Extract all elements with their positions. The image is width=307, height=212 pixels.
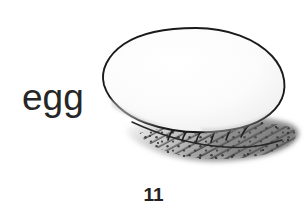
illustration-figure: egg 11 xyxy=(0,0,307,212)
figure-number: 11 xyxy=(0,184,307,206)
egg-body xyxy=(103,28,284,134)
caption-word: egg xyxy=(22,78,84,118)
